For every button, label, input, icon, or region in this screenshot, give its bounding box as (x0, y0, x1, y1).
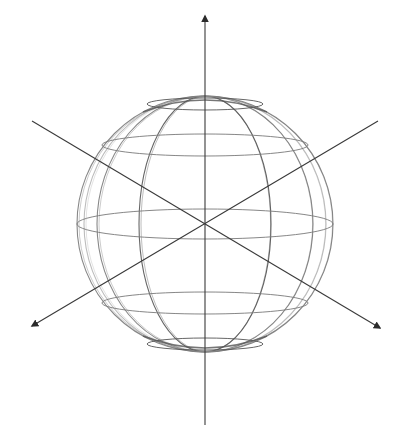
sphere-diagram (0, 0, 411, 437)
wireframe-sphere-figure (0, 0, 411, 437)
